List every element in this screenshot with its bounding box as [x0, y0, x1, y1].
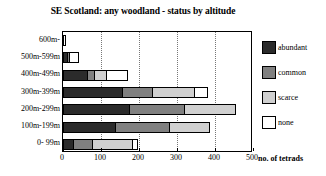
bar-segment-none[interactable] — [69, 53, 78, 62]
x-axis-tick — [215, 148, 216, 151]
legend-label: scarce — [278, 93, 298, 102]
legend-swatch-abundant — [262, 41, 276, 54]
chart-title: SE Scotland: any woodland - status by al… — [0, 6, 286, 16]
legend-label: none — [278, 118, 294, 127]
bar-segment-common[interactable] — [115, 123, 168, 132]
bar-segment-none[interactable] — [194, 88, 207, 97]
legend-item[interactable]: none — [262, 111, 326, 133]
bar-segment-common[interactable] — [73, 140, 92, 149]
x-axis-tick — [139, 148, 140, 151]
legend-item[interactable]: abundant — [262, 36, 326, 58]
legend-item[interactable]: common — [262, 61, 326, 83]
bar-row — [63, 84, 251, 101]
y-axis-tick-label: 500m-599m — [2, 52, 60, 61]
x-axis-tick-label: 400 — [201, 153, 227, 162]
stacked-bar[interactable] — [63, 52, 79, 63]
bar-segment-none[interactable] — [106, 71, 126, 80]
bar-segment-scarce[interactable] — [169, 123, 209, 132]
plot-area — [62, 31, 252, 152]
y-axis-labels: 600m-500m-599m400m-499m300m-399m200m-299… — [0, 31, 60, 152]
stacked-bar[interactable] — [63, 70, 128, 81]
legend-swatch-scarce — [262, 91, 276, 104]
x-axis-title: no. of tetrads — [258, 154, 303, 163]
bar-row — [63, 101, 251, 118]
bar-segment-abundant[interactable] — [64, 71, 87, 80]
y-axis-tick-label: 400m-499m — [2, 69, 60, 78]
bar-segment-abundant[interactable] — [64, 88, 122, 97]
bar-row — [63, 67, 251, 84]
legend-label: common — [278, 68, 306, 77]
bar-segment-abundant[interactable] — [64, 105, 129, 114]
y-axis-tick-label: 200m-299m — [2, 104, 60, 113]
chart-container: SE Scotland: any woodland - status by al… — [0, 0, 326, 176]
bar-segment-scarce[interactable] — [152, 88, 195, 97]
chart-legend: abundantcommonscarcenone — [262, 36, 326, 136]
y-axis-tick-label: 100m-199m — [2, 121, 60, 130]
x-axis-tick — [253, 148, 254, 151]
x-axis-tick — [177, 148, 178, 151]
x-axis-tick-label: 300 — [163, 153, 189, 162]
bar-segment-common[interactable] — [122, 88, 152, 97]
x-axis-tick-label: 200 — [125, 153, 151, 162]
x-axis-tick-label: 0 — [49, 153, 75, 162]
legend-item[interactable]: scarce — [262, 86, 326, 108]
bar-row — [63, 32, 251, 49]
bar-segment-common[interactable] — [87, 71, 94, 80]
bar-row — [63, 136, 251, 153]
x-axis-tick — [101, 148, 102, 151]
bar-row — [63, 118, 251, 135]
y-axis-tick-label: 300m-399m — [2, 87, 60, 96]
bar-segment-none[interactable] — [64, 36, 65, 45]
bar-segment-common[interactable] — [129, 105, 184, 114]
x-axis-tick — [63, 148, 64, 151]
bar-segment-scarce[interactable] — [184, 105, 235, 114]
bar-segment-scarce[interactable] — [92, 140, 133, 149]
bar-segment-abundant[interactable] — [64, 123, 115, 132]
stacked-bar[interactable] — [63, 104, 236, 115]
x-axis-tick-label: 100 — [87, 153, 113, 162]
bar-segment-scarce[interactable] — [94, 71, 107, 80]
legend-swatch-none — [262, 116, 276, 129]
legend-swatch-common — [262, 66, 276, 79]
bar-segment-abundant[interactable] — [64, 140, 73, 149]
legend-label: abundant — [278, 43, 307, 52]
stacked-bar[interactable] — [63, 35, 66, 46]
stacked-bar[interactable] — [63, 87, 208, 98]
bar-row — [63, 49, 251, 66]
y-axis-tick-label: 0- 99m — [2, 138, 60, 147]
bar-segment-none[interactable] — [132, 140, 137, 149]
stacked-bar[interactable] — [63, 122, 210, 133]
y-axis-tick-label: 600m- — [2, 35, 60, 44]
